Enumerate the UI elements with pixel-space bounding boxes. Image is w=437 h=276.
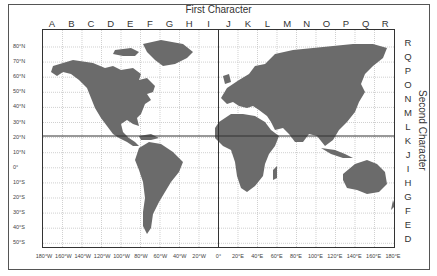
row-label: I — [402, 163, 414, 175]
row-label: H — [402, 177, 414, 189]
row-label: F — [402, 205, 414, 217]
column-label: C — [81, 18, 101, 29]
longitude-label: 180°E — [376, 253, 410, 259]
world-map-svg — [43, 30, 394, 247]
column-label: A — [42, 18, 62, 29]
latitude-label: 0° — [9, 162, 41, 172]
latitude-label: 30°S — [9, 207, 41, 217]
row-label: R — [402, 37, 414, 49]
first-character-title: First Character — [0, 4, 437, 15]
column-label: O — [316, 18, 336, 29]
column-label: R — [375, 18, 395, 29]
latitude-label: 60°N — [9, 71, 41, 81]
column-label: N — [297, 18, 317, 29]
latitude-label: 50°N — [9, 86, 41, 96]
column-label: J — [218, 18, 238, 29]
latitude-label: 20°S — [9, 192, 41, 202]
row-label: L — [402, 121, 414, 133]
north-america — [51, 60, 155, 146]
column-label: D — [101, 18, 121, 29]
new-zealand — [391, 200, 394, 210]
column-label: I — [199, 18, 219, 29]
latitude-label: 10°N — [9, 147, 41, 157]
latitude-label: 80°N — [9, 41, 41, 51]
south-america — [135, 142, 183, 234]
column-label: G — [159, 18, 179, 29]
row-label: K — [402, 135, 414, 147]
latitude-label: 40°N — [9, 101, 41, 111]
continents — [51, 40, 394, 234]
latitude-label: 20°N — [9, 132, 41, 142]
column-label: L — [258, 18, 278, 29]
column-label: E — [120, 18, 140, 29]
column-label: F — [140, 18, 160, 29]
row-label: P — [402, 65, 414, 77]
africa — [215, 114, 279, 192]
row-label: J — [402, 149, 414, 161]
latitude-label: 40°S — [9, 222, 41, 232]
latitude-label: 30°N — [9, 117, 41, 127]
latitude-label: 50°S — [9, 237, 41, 247]
world-map-plot — [42, 29, 395, 248]
caribbean — [139, 134, 159, 140]
row-label: O — [402, 79, 414, 91]
arctic-islands — [113, 48, 139, 56]
row-label: N — [402, 93, 414, 105]
column-label: Q — [356, 18, 376, 29]
column-label: M — [277, 18, 297, 29]
row-label: M — [402, 107, 414, 119]
second-character-title: Second Character — [417, 90, 428, 171]
british-isles — [223, 74, 231, 84]
row-label: D — [402, 233, 414, 245]
latitude-label: 10°S — [9, 177, 41, 187]
latitude-label: 70°N — [9, 56, 41, 66]
column-label: H — [179, 18, 199, 29]
row-label: G — [402, 191, 414, 203]
column-label: B — [61, 18, 81, 29]
australia — [343, 160, 387, 194]
row-label: Q — [402, 51, 414, 63]
column-label: K — [238, 18, 258, 29]
column-label: P — [336, 18, 356, 29]
row-label: E — [402, 219, 414, 231]
